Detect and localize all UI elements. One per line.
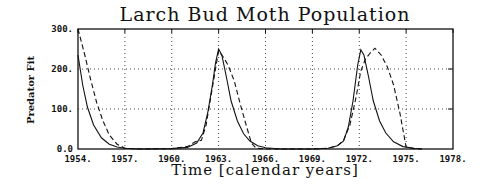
series [78,29,422,149]
series-dashed [78,29,422,149]
x-tick-label: 1954. [64,154,91,164]
chart: Larch Bud Moth Population 0.0100.200.300… [0,0,490,185]
y-tick-label: 300. [51,24,73,34]
y-axis-label: Predator Fit [25,56,36,125]
chart-title: Larch Bud Moth Population [120,3,411,25]
y-ticks: 0.0100.200.300. [51,24,453,154]
x-tick-label: 1957. [111,154,138,164]
y-tick-label: 200. [51,64,73,74]
x-tick-label: 1975. [393,154,420,164]
x-tick-label: 1978. [439,154,466,164]
y-tick-label: 0.0 [57,144,73,154]
series-solid [78,49,422,149]
x-axis-label: Time [calendar years] [171,161,359,179]
grid [78,29,453,149]
y-tick-label: 100. [51,104,73,114]
